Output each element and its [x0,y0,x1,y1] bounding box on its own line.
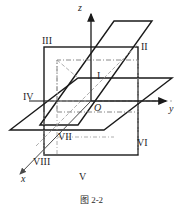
octant-label-I: I [97,71,100,81]
figure-drawing [0,0,183,204]
octant-label-VIII: VIII [33,157,50,167]
coordinate-octants-figure: z y x O I II III IV V VI VII VIII 图 2-2 [0,0,183,204]
octant-label-VI: VI [137,138,148,148]
axis-label-x: x [21,174,25,184]
axis-label-z: z [78,3,82,13]
octant-label-V: V [79,172,86,182]
octant-label-II: II [141,42,148,52]
axis-label-y: y [169,104,173,114]
octant-label-VII: VII [58,132,72,142]
figure-caption: 图 2-2 [0,193,183,204]
hidden-edges-dashed [36,44,172,155]
octant-label-IV: IV [23,92,34,102]
origin-label: O [94,103,101,113]
octant-label-III: III [42,36,52,46]
axis-x [20,101,91,174]
